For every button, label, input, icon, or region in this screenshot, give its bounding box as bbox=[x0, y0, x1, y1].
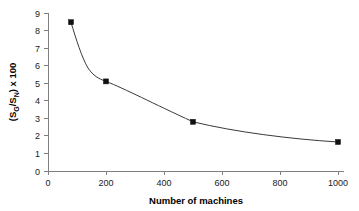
y-tick-label: 4 bbox=[35, 96, 40, 106]
y-axis-title: (SG/SN) x 100 bbox=[7, 63, 20, 122]
y-tick-label: 9 bbox=[35, 9, 40, 19]
x-axis-ticks bbox=[48, 171, 338, 175]
y-tick-label: 8 bbox=[35, 26, 40, 36]
x-axis-title: Number of machines bbox=[149, 195, 243, 206]
svg-text:(SG/SN) x 100: (SG/SN) x 100 bbox=[7, 63, 20, 122]
x-tick-label: 600 bbox=[214, 178, 229, 188]
series-line bbox=[71, 22, 338, 142]
y-tick-label: 5 bbox=[35, 79, 40, 89]
y-tick-label: 2 bbox=[35, 131, 40, 141]
x-tick-label: 0 bbox=[45, 178, 50, 188]
y-axis-tick-labels: 9 8 7 6 5 4 3 2 1 0 bbox=[35, 9, 40, 177]
y-axis-title-open: (S bbox=[7, 112, 18, 122]
line-chart: 9 8 7 6 5 4 3 2 1 0 0 200 400 600 800 10… bbox=[0, 0, 359, 211]
y-tick-label: 3 bbox=[35, 114, 40, 124]
x-tick-label: 200 bbox=[98, 178, 113, 188]
y-tick-label: 1 bbox=[35, 149, 40, 159]
y-tick-label: 6 bbox=[35, 61, 40, 71]
data-point-marker bbox=[104, 79, 109, 84]
chart-figure: 9 8 7 6 5 4 3 2 1 0 0 200 400 600 800 10… bbox=[0, 0, 359, 211]
series-markers bbox=[69, 20, 341, 145]
x-tick-label: 1000 bbox=[328, 178, 348, 188]
x-tick-label: 400 bbox=[156, 178, 171, 188]
x-axis-tick-labels: 0 200 400 600 800 1000 bbox=[45, 178, 348, 188]
y-tick-label: 0 bbox=[35, 167, 40, 177]
y-axis-title-slash: /S bbox=[7, 97, 18, 106]
data-point-marker bbox=[191, 119, 196, 124]
y-axis-ticks bbox=[44, 13, 48, 171]
data-point-marker bbox=[69, 20, 74, 25]
y-tick-label: 7 bbox=[35, 44, 40, 54]
y-axis-title-close: ) x 100 bbox=[7, 63, 18, 93]
x-tick-label: 800 bbox=[272, 178, 287, 188]
data-point-marker bbox=[336, 140, 341, 145]
